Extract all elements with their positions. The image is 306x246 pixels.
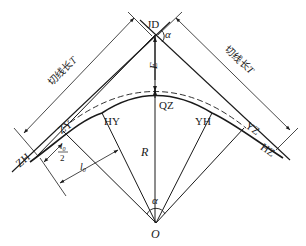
label-zh: ZH xyxy=(13,151,32,170)
label-r: R xyxy=(140,145,149,159)
label-half-spiral-length: l0 2 xyxy=(58,141,68,163)
label-tangent-length-left: 切线长T xyxy=(45,53,80,88)
right-t-dim-ext-bottom xyxy=(276,128,298,150)
left-t-dim-ext-bottom xyxy=(14,128,38,156)
radius-line-yh xyxy=(156,113,212,223)
svg-text:l0: l0 xyxy=(60,141,66,152)
label-jd: JD xyxy=(147,18,159,30)
label-yh: YH xyxy=(195,115,211,127)
l0-ext-line xyxy=(40,158,66,196)
label-tangent-length-right: 切线长T xyxy=(223,43,258,77)
label-o: O xyxy=(151,227,160,241)
curve-geometry-diagram: JD QZ HY YH ZY YZ ZH HZ O E R α α 切线长T 切… xyxy=(0,0,306,246)
right-t-dim-line xyxy=(176,18,290,130)
label-alpha-jd: α xyxy=(165,28,171,40)
label-qz: QZ xyxy=(159,99,174,111)
label-yz: YZ xyxy=(243,119,262,137)
svg-text:切线长T: 切线长T xyxy=(45,53,80,88)
svg-text:2: 2 xyxy=(60,153,65,163)
label-hy: HY xyxy=(104,115,120,127)
label-spiral-length: l0 xyxy=(80,161,86,173)
radius-line-hy xyxy=(102,113,156,223)
label-e: E xyxy=(147,62,159,70)
radius-line-yz xyxy=(156,128,244,223)
svg-text:切线长T: 切线长T xyxy=(223,43,258,77)
left-offset-tangent xyxy=(36,35,155,157)
l0-dim-line xyxy=(60,150,118,183)
label-alpha-o: α xyxy=(152,194,158,206)
